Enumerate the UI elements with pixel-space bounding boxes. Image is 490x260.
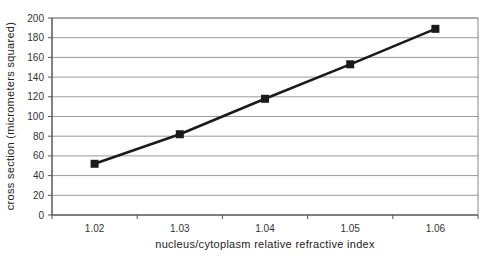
x-tick-label: 1.02 bbox=[85, 223, 105, 234]
y-axis-title: cross section (micrometers squared) bbox=[4, 22, 16, 210]
y-tick-label: 20 bbox=[33, 190, 45, 201]
x-axis-title: nucleus/cytoplasm relative refractive in… bbox=[155, 238, 375, 250]
y-tick-label: 120 bbox=[27, 91, 44, 102]
y-tick-label: 200 bbox=[27, 13, 44, 24]
data-point-marker bbox=[261, 95, 269, 103]
line-chart: 020406080100120140160180200 1.021.031.04… bbox=[0, 0, 490, 260]
data-point-marker bbox=[431, 25, 439, 33]
data-point-marker bbox=[176, 130, 184, 138]
y-tick-label: 80 bbox=[33, 131, 45, 142]
y-axis: 020406080100120140160180200 bbox=[27, 13, 52, 221]
gridlines bbox=[52, 18, 478, 215]
x-tick-label: 1.03 bbox=[170, 223, 190, 234]
x-tick-label: 1.05 bbox=[340, 223, 360, 234]
y-tick-label: 0 bbox=[38, 210, 44, 221]
y-tick-label: 180 bbox=[27, 32, 44, 43]
y-tick-label: 60 bbox=[33, 150, 45, 161]
x-axis: 1.021.031.041.051.06 bbox=[52, 18, 478, 234]
y-tick-label: 160 bbox=[27, 52, 44, 63]
y-tick-label: 140 bbox=[27, 72, 44, 83]
data-point-marker bbox=[91, 160, 99, 168]
y-tick-label: 100 bbox=[27, 111, 44, 122]
x-tick-label: 1.06 bbox=[426, 223, 446, 234]
x-tick-label: 1.04 bbox=[255, 223, 275, 234]
y-tick-label: 40 bbox=[33, 170, 45, 181]
data-point-marker bbox=[346, 60, 354, 68]
